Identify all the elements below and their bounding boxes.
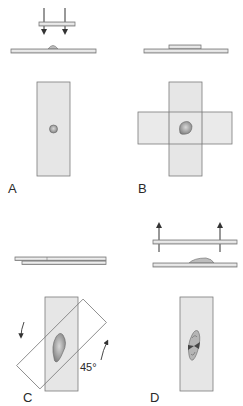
top-slide (39, 22, 75, 26)
angle-label: 45° (80, 361, 97, 373)
bottom-slide (11, 49, 96, 53)
panel-label-b: B (138, 181, 147, 196)
top-slide (15, 257, 106, 261)
bottom-slide (144, 49, 228, 53)
panel-label-c: C (23, 390, 32, 405)
panel-c-plan-view (17, 297, 107, 391)
panel-c-side-view (15, 257, 106, 265)
bottom-slide (22, 261, 106, 265)
panel-d-side-view (153, 225, 237, 267)
top-slide (169, 45, 201, 49)
panel-a-side-view (11, 8, 96, 53)
top-slide (153, 240, 237, 244)
panel-label-a: A (8, 181, 17, 196)
panel-label-d: D (150, 390, 159, 405)
specimen (50, 125, 58, 133)
smear-layer (189, 258, 214, 263)
rotate-arrow-icon (21, 322, 24, 336)
rotate-arrow-icon (101, 342, 107, 360)
diagram-canvas (0, 0, 243, 406)
panel-a-plan-view (37, 82, 70, 176)
panel-d-plan-view (180, 297, 213, 391)
panel-b-side-view (144, 45, 228, 53)
specimen-drop (48, 46, 58, 50)
panel-b-plan-view (138, 82, 232, 176)
bottom-slide (153, 263, 237, 267)
